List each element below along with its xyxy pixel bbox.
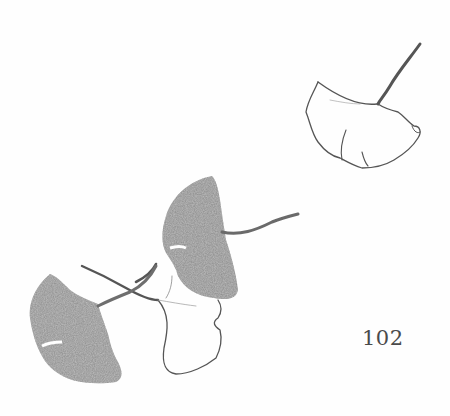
- page-number: 102: [362, 326, 404, 350]
- leaf-outline-top-right: [306, 44, 420, 168]
- page: 102: [0, 0, 450, 416]
- leaf-shaded-bottom-left: [30, 266, 156, 383]
- ginkgo-illustration: [0, 0, 450, 416]
- leaf-shaded-middle: [162, 176, 298, 299]
